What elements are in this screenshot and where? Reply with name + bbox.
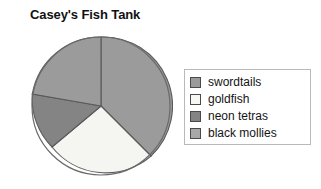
pie-svg [31, 34, 173, 178]
legend-item-label: swordtails [208, 76, 261, 89]
legend-item-goldfish[interactable]: goldfish [190, 91, 310, 108]
legend-item-label: goldfish [208, 93, 249, 106]
legend-swatch-icon [190, 94, 201, 105]
legend-swatch-icon [190, 128, 201, 139]
pie-slice-black-mollies[interactable] [32, 37, 101, 106]
legend-item-swordtails[interactable]: swordtails [190, 74, 310, 91]
legend: swordtails goldfish neon tetras black mo… [184, 69, 311, 145]
page-title: Casey's Fish Tank [30, 7, 140, 22]
legend-swatch-icon [190, 77, 201, 88]
legend-item-label: neon tetras [208, 110, 268, 123]
legend-item-neon-tetras[interactable]: neon tetras [190, 108, 310, 125]
legend-item-black-mollies[interactable]: black mollies [190, 125, 310, 142]
pie-chart-figure: Casey's Fish Tank swordtails goldfish ne… [0, 0, 321, 189]
legend-swatch-icon [190, 111, 201, 122]
legend-item-label: black mollies [208, 127, 277, 140]
pie-chart [31, 34, 173, 178]
